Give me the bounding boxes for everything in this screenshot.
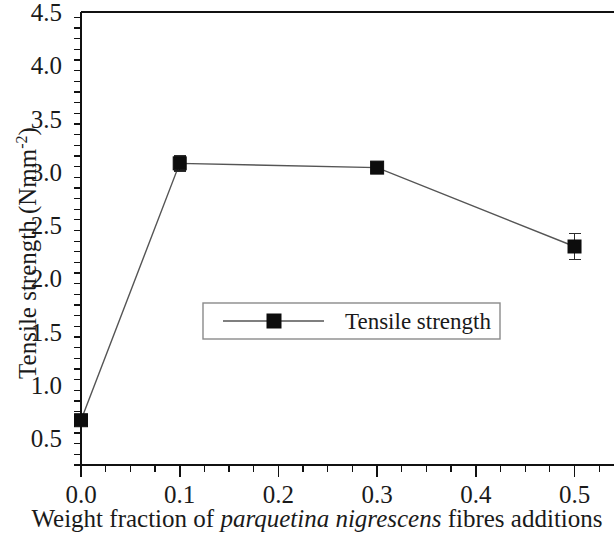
x-axis-title-post: fibres additions xyxy=(441,505,602,532)
chart-figure: 0.51.01.52.02.53.03.54.04.5 0.00.10.20.3… xyxy=(0,0,614,537)
data-point-marker xyxy=(75,414,88,427)
data-point-marker xyxy=(568,240,581,253)
y-tick-label: 4.5 xyxy=(31,0,62,26)
y-tick-label: 4.0 xyxy=(31,52,62,79)
x-tick-label: 0.1 xyxy=(164,481,195,508)
y-axis-title: Tensile strength (Nmm-2) xyxy=(13,127,42,379)
x-axis-title-pre: Weight fraction of xyxy=(31,505,220,532)
y-axis-title-base: Tensile strength (Nmm xyxy=(14,148,42,379)
x-tick-label: 0.2 xyxy=(263,481,294,508)
legend-marker-square-icon xyxy=(267,314,281,328)
data-point-marker xyxy=(371,161,384,174)
x-tick-label: 0.0 xyxy=(65,481,96,508)
x-tick-label: 0.4 xyxy=(460,481,492,508)
y-axis-title-superscript: -2 xyxy=(13,135,30,148)
x-tick-label: 0.5 xyxy=(559,481,590,508)
y-axis-title-tail: ) xyxy=(14,127,42,135)
x-axis-title: Weight fraction of parquetina nigrescens… xyxy=(31,505,602,532)
x-axis-title-species: parquetina nigrescens xyxy=(218,505,441,532)
chart-background xyxy=(0,0,614,537)
legend: Tensile strength xyxy=(203,303,500,339)
y-tick-label: 0.5 xyxy=(31,425,62,452)
x-tick-label: 0.3 xyxy=(361,481,392,508)
tensile-strength-line-chart: 0.51.01.52.02.53.03.54.04.5 0.00.10.20.3… xyxy=(0,0,614,537)
legend-label-tensile-strength: Tensile strength xyxy=(345,309,491,334)
data-point-marker xyxy=(173,157,186,170)
